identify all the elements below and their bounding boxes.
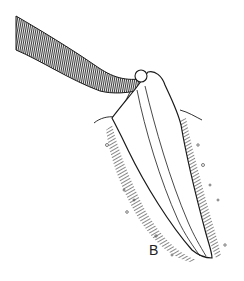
dental-illustration [0, 0, 244, 281]
ball-clasp [135, 70, 147, 82]
tooth [112, 72, 212, 258]
panel-label: B [149, 243, 158, 257]
ligature-band [16, 16, 147, 93]
